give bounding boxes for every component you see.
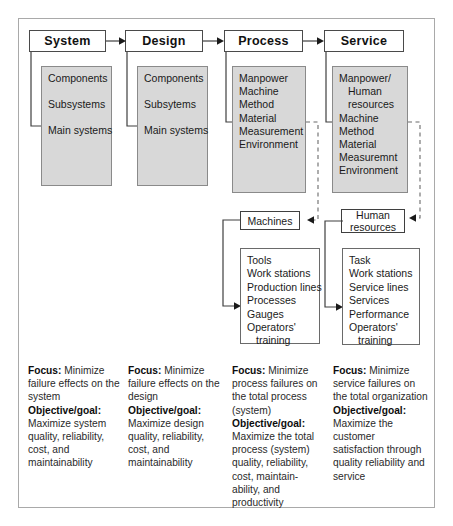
detail-item: Service lines [349, 281, 417, 294]
detail-item: Operators' [247, 321, 317, 334]
dashed-connector-service-to-human-resources [408, 118, 426, 226]
detail-item: Services [349, 294, 417, 307]
objective-block: Objective/goal: Maximize the total proce… [232, 417, 322, 509]
attribute-item: Main systems [144, 124, 205, 137]
focus-block: Focus: Minimize failure effects on the d… [128, 364, 220, 404]
attributes-panel-design: Components Subsytems Main systems [137, 66, 208, 186]
objective-block: Objective/goal: Maximize design quality,… [128, 404, 220, 470]
objective-label: Objective/goal: [128, 405, 201, 416]
objective-block: Objective/goal: Maximize the customer sa… [333, 404, 428, 483]
objective-text: Maximize the total process (system) qual… [232, 431, 314, 508]
attributes-panel-process: Manpower Machine Method Material Measure… [232, 66, 306, 193]
detail-panel-human-resources: Task Work stations Service lines Service… [342, 248, 420, 345]
attribute-item: Human [339, 85, 405, 98]
attribute-item: Environment [239, 138, 303, 151]
objective-label: Objective/goal: [333, 405, 406, 416]
sub-header-human-resources-line2: resources [350, 221, 396, 233]
attributes-panel-system: Components Subsystems Main systems [41, 66, 112, 186]
objective-text: Maximize system quality, reliability, co… [28, 418, 106, 469]
focus-block: Focus: Minimize failure effects on the s… [28, 364, 124, 404]
attribute-item: Machine [339, 112, 405, 125]
attribute-item: Method [239, 98, 303, 111]
attribute-item: Subsystems [48, 98, 109, 111]
sub-header-human-resources[interactable]: Human resources [341, 209, 405, 233]
diagram-canvas: System Design Process Service [0, 0, 453, 526]
detail-item: Work stations [349, 267, 417, 280]
focus-block: Focus: Minimize process failures on the … [232, 364, 322, 417]
detail-item: Task [349, 254, 417, 267]
attribute-item: Manpower [239, 72, 303, 85]
stage-header-service-label: Service [341, 34, 388, 48]
attribute-item: Subsytems [144, 98, 205, 111]
detail-item: Processes [247, 294, 317, 307]
attribute-item: Material [239, 112, 303, 125]
description-column-process: Focus: Minimize process failures on the … [232, 364, 322, 509]
stage-header-system-label: System [44, 34, 90, 48]
detail-item: training [349, 334, 417, 347]
dashed-connector-process-to-machines [306, 118, 324, 226]
attribute-item: Components [144, 72, 205, 85]
stage-header-design[interactable]: Design [125, 30, 203, 52]
attribute-item: Components [48, 72, 109, 85]
detail-item: Gauges [247, 308, 317, 321]
attribute-item: Environment [339, 164, 405, 177]
stage-header-design-label: Design [142, 34, 185, 48]
sub-header-human-resources-line1: Human [356, 209, 390, 221]
objective-label: Objective/goal: [232, 418, 305, 429]
focus-label: Focus: [232, 365, 265, 376]
attribute-item: Main systems [48, 124, 109, 137]
arrow-system-to-design [106, 34, 127, 48]
detail-item: Performance [349, 308, 417, 321]
attributes-panel-service: Manpower/ Human resources Machine Method… [332, 66, 408, 193]
detail-panel-machines: Tools Work stations Production lines Pro… [240, 248, 320, 344]
focus-label: Focus: [128, 365, 161, 376]
arrow-process-to-service [303, 34, 326, 48]
stage-header-service[interactable]: Service [324, 30, 404, 52]
attribute-item: Material [339, 138, 405, 151]
stage-header-process[interactable]: Process [224, 30, 303, 52]
attribute-item: Measurement [239, 125, 303, 138]
description-column-system: Focus: Minimize failure effects on the s… [28, 364, 124, 470]
detail-item: Tools [247, 254, 317, 267]
detail-item: Operators' [349, 321, 417, 334]
detail-item: training [247, 334, 317, 347]
arrow-design-to-process [203, 34, 226, 48]
attribute-item: Method [339, 125, 405, 138]
detail-item: Work stations [247, 267, 317, 280]
objective-block: Objective/goal: Maximize system quality,… [28, 404, 124, 470]
stage-header-process-label: Process [238, 34, 289, 48]
focus-block: Focus: Minimize service failures on the … [333, 364, 428, 404]
description-column-service: Focus: Minimize service failures on the … [333, 364, 428, 483]
detail-item: Production lines [247, 281, 317, 294]
description-column-design: Focus: Minimize failure effects on the d… [128, 364, 220, 470]
objective-text: Maximize design quality, reliability, co… [128, 418, 204, 469]
sub-header-machines[interactable]: Machines [240, 211, 300, 230]
objective-text: Maximize the customer satisfaction throu… [333, 418, 425, 482]
attribute-item: resources [339, 98, 405, 111]
objective-label: Objective/goal: [28, 405, 101, 416]
stage-header-system[interactable]: System [29, 30, 106, 52]
attribute-item: Measuremnt [339, 151, 405, 164]
focus-label: Focus: [28, 365, 61, 376]
sub-header-machines-label: Machines [248, 215, 293, 227]
attribute-item: Machine [239, 85, 303, 98]
focus-label: Focus: [333, 365, 366, 376]
attribute-item: Manpower/ [339, 72, 405, 85]
